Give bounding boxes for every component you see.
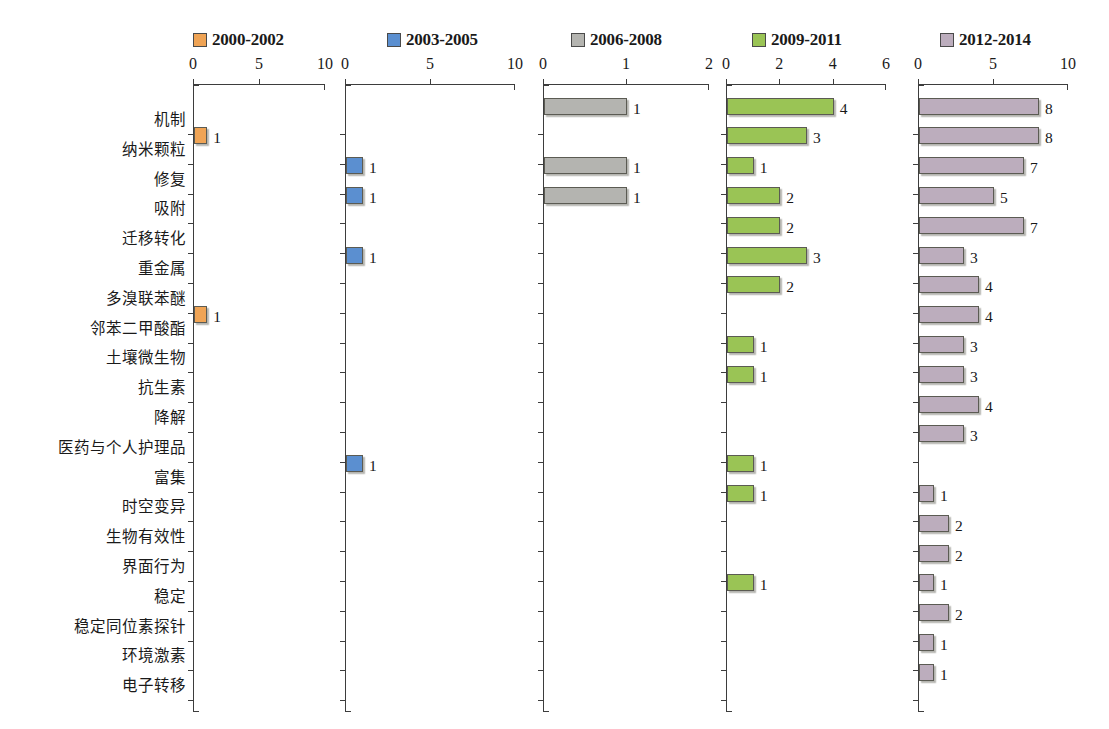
category-axis-tick-mark	[913, 611, 918, 612]
bar-value-label: 1	[760, 458, 768, 474]
x-tick-label: 10	[507, 56, 523, 72]
x-axis-tick-labels: 0510	[193, 56, 325, 78]
category-axis-tick-mark	[538, 551, 543, 552]
category-axis-tick-mark	[188, 670, 193, 671]
category-axis-tick-mark	[340, 462, 345, 463]
bar-value-label: 1	[369, 458, 377, 474]
bar	[919, 187, 994, 204]
category-axis-tick-mark	[913, 283, 918, 284]
category-axis-tick-mark	[913, 134, 918, 135]
category-axis-tick-mark	[913, 194, 918, 195]
category-axis-tick-mark	[538, 283, 543, 284]
legend-item-2006-2008: 2006-2008	[571, 30, 662, 50]
bar	[919, 157, 1024, 174]
bar	[194, 306, 207, 323]
bar	[346, 157, 363, 174]
category-axis-tick-mark	[913, 521, 918, 522]
bar-value-label: 1	[369, 190, 377, 206]
bar-value-label: 2	[786, 220, 794, 236]
category-axis-tick-mark	[721, 551, 726, 552]
category-axis-bottom-cap	[193, 711, 199, 712]
category-axis-tick-mark	[721, 164, 726, 165]
bar	[919, 127, 1039, 144]
category-axis-tick-mark	[721, 343, 726, 344]
category-label: 机制	[14, 112, 186, 128]
category-axis-line	[193, 85, 194, 712]
category-label: 医药与个人护理品	[14, 440, 186, 456]
bar	[727, 574, 754, 591]
legend-item-2003-2005: 2003-2005	[387, 30, 478, 50]
category-axis-tick-mark	[538, 641, 543, 642]
category-axis-tick-mark	[913, 164, 918, 165]
x-axis-tick-mark	[993, 79, 994, 85]
bar-value-label: 3	[970, 250, 978, 266]
bar-value-label: 4	[840, 101, 848, 117]
category-label: 纳米颗粒	[14, 142, 186, 158]
bar-value-label: 1	[940, 637, 948, 653]
bar	[919, 247, 964, 264]
bar-value-label: 1	[760, 369, 768, 385]
category-axis-tick-mark	[721, 223, 726, 224]
bar-value-label: 1	[633, 101, 641, 117]
bar	[919, 634, 934, 651]
category-axis-tick-mark	[538, 611, 543, 612]
panel-2009-2011: 0246431223211111	[726, 56, 886, 690]
category-axis-tick-mark	[721, 194, 726, 195]
category-axis-tick-mark	[538, 432, 543, 433]
category-axis-top-cap	[345, 85, 351, 86]
legend-swatch-icon	[571, 33, 585, 47]
category-axis-tick-mark	[538, 581, 543, 582]
category-axis-tick-mark	[188, 700, 193, 701]
category-axis-tick-mark	[340, 611, 345, 612]
category-axis-tick-mark	[188, 283, 193, 284]
category-axis-tick-mark	[721, 611, 726, 612]
category-axis-top-cap	[543, 85, 549, 86]
category-axis-tick-mark	[340, 492, 345, 493]
x-tick-label: 0	[341, 56, 349, 72]
x-axis-tick-mark	[324, 84, 325, 90]
category-axis-tick-mark	[913, 223, 918, 224]
category-axis-line	[543, 85, 544, 712]
bar-value-label: 1	[760, 488, 768, 504]
x-axis-tick-labels: 012	[543, 56, 709, 78]
category-axis-tick-mark	[913, 343, 918, 344]
bar	[727, 157, 754, 174]
legend-item-label: 2006-2008	[590, 30, 662, 50]
category-axis-tick-mark	[188, 372, 193, 373]
bar-value-label: 1	[633, 160, 641, 176]
category-axis-tick-mark	[538, 372, 543, 373]
bar-value-label: 2	[786, 190, 794, 206]
legend-swatch-icon	[940, 33, 954, 47]
category-axis-tick-mark	[340, 194, 345, 195]
category-axis-tick-mark	[538, 164, 543, 165]
category-axis-tick-mark	[538, 343, 543, 344]
category-axis-tick-mark	[913, 492, 918, 493]
x-axis-tick-labels: 0510	[345, 56, 515, 78]
category-axis-bottom-cap	[543, 711, 549, 712]
category-label: 吸附	[14, 201, 186, 217]
bar	[544, 157, 627, 174]
bar	[919, 396, 979, 413]
category-label: 生物有效性	[14, 529, 186, 545]
x-tick-label: 10	[317, 56, 333, 72]
bar-value-label: 4	[985, 309, 993, 325]
category-axis-tick-mark	[188, 402, 193, 403]
x-tick-label: 0	[914, 56, 922, 72]
category-label: 重金属	[14, 261, 186, 277]
category-axis-tick-mark	[188, 223, 193, 224]
category-axis-tick-mark	[188, 432, 193, 433]
panel-2012-2014: 05108875734433431221211	[918, 56, 1068, 690]
bar	[919, 276, 979, 293]
legend-swatch-icon	[193, 33, 207, 47]
category-axis-tick-mark	[721, 283, 726, 284]
category-axis-tick-mark	[721, 134, 726, 135]
category-axis-tick-mark	[340, 253, 345, 254]
legend-item-label: 2003-2005	[406, 30, 478, 50]
category-axis-tick-mark	[340, 641, 345, 642]
category-axis-tick-mark	[188, 641, 193, 642]
category-axis-tick-mark	[340, 372, 345, 373]
bar	[727, 366, 754, 383]
category-axis-tick-mark	[721, 402, 726, 403]
bar	[194, 127, 207, 144]
bar-value-label: 1	[940, 667, 948, 683]
